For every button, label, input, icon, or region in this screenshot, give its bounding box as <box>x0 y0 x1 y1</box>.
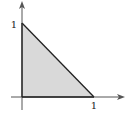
region-diagram: 1 1 <box>0 0 129 121</box>
y-axis-tick-label: 1 <box>11 19 17 30</box>
x-axis-tick-label: 1 <box>91 100 97 111</box>
